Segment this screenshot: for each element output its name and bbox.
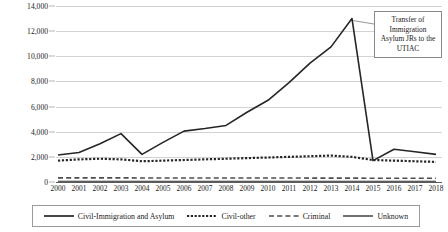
annotation-line-3: Asylum JRs to the: [377, 34, 439, 44]
legend-label-criminal: Criminal: [303, 212, 331, 221]
annotation-line-4: UTIAC: [377, 44, 439, 54]
legend-swatch-solid-thin: [343, 212, 373, 220]
legend-item-civil-immigration-and-asylum: Civil-Immigration and Asylum: [44, 212, 175, 221]
legend-item-criminal: Criminal: [269, 212, 331, 221]
legend-label-civil-other: Civil-other: [221, 212, 255, 221]
line-chart: 02,0004,0006,0008,00010,00012,00014,000 …: [0, 0, 448, 232]
legend-item-unknown: Unknown: [343, 212, 408, 221]
legend-swatch-dotted: [187, 212, 217, 220]
annotation-line-1: Transfer of: [377, 15, 439, 25]
annotation-leader: [353, 21, 374, 24]
legend-label-unknown: Unknown: [377, 212, 408, 221]
legend-label-civil-immigration-and-asylum: Civil-Immigration and Asylum: [78, 212, 175, 221]
legend-swatch-solid: [44, 212, 74, 220]
legend-swatch-dashed: [269, 212, 299, 220]
legend-item-civil-other: Civil-other: [187, 212, 255, 221]
chart-legend: Civil-Immigration and Asylum Civil-other…: [32, 205, 420, 227]
annotation-line-2: Immigration: [377, 25, 439, 35]
annotation-callout: Transfer of Immigration Asylum JRs to th…: [374, 11, 442, 58]
